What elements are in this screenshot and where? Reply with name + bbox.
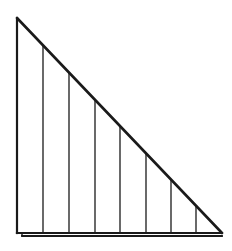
triangle-diagram xyxy=(0,0,232,251)
vertical-strip-lines xyxy=(43,45,196,233)
